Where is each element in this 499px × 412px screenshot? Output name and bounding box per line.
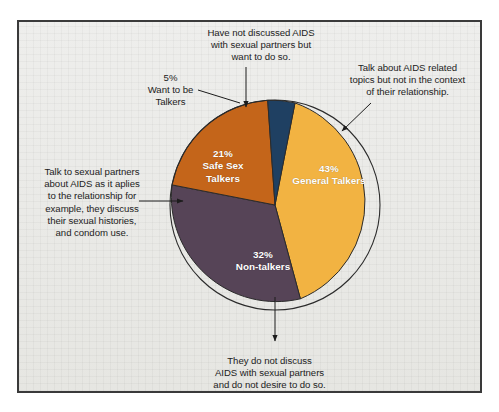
callout-safe-sex-talkers-description: Talk to sexual partners about AIDS as it… — [20, 166, 164, 239]
callout-non-talkers-description: They do not discuss AIDS with sexual par… — [182, 355, 357, 392]
slice-label-non-talkers: 32% Non-talkers — [207, 249, 319, 274]
pie-chart-figure: Have not discussed AIDS with sexual part… — [0, 0, 499, 412]
callout-want-to-be-talkers-description: Have not discussed AIDS with sexual part… — [165, 27, 357, 64]
slice-label-safe-sex-talkers: 21% Safe Sex Talkers — [176, 148, 270, 185]
callout-general-talkers-description: Talk about AIDS related topics but not i… — [330, 62, 485, 99]
leader-line-general-talkers — [342, 103, 371, 131]
callout-want-to-be-talkers-label: 5% Want to be Talkers — [118, 72, 223, 109]
slice-label-general-talkers: 43% General Talkers — [276, 163, 382, 188]
